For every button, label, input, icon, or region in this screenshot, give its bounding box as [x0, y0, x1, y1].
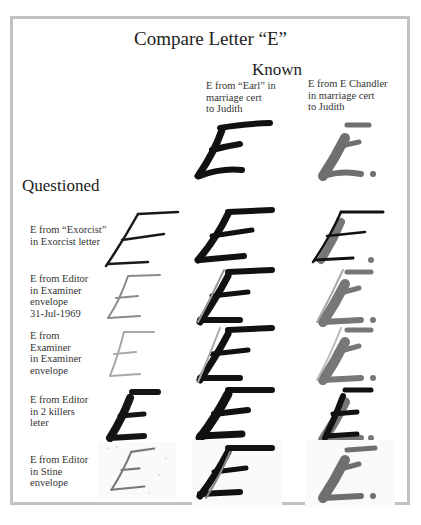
known-col-label-chandler: E from E Chandler in marriage cert to Ju… — [308, 78, 388, 113]
row-label-examiner-envelope: E from Examiner in Examiner envelope — [30, 330, 82, 376]
row-label-exorcist: E from “Exorcist” in Exorcist letter — [30, 224, 106, 247]
overlay-examiner-envelope-chandler-image — [305, 322, 395, 390]
known-header: Known — [252, 60, 302, 80]
questioned-e-stine-image — [98, 442, 176, 498]
known-e-chandler-image — [305, 118, 395, 186]
row-label-stine: E from Editor in Stine envelope — [30, 454, 88, 489]
known-e-earl-image — [192, 118, 282, 186]
row-label-2-killers: E from Editor in 2 killers leter — [30, 394, 88, 429]
overlay-examiner-envelope-earl-image — [192, 322, 282, 390]
overlay-stine-chandler-image — [305, 440, 395, 508]
overlay-exorcist-chandler-image — [305, 204, 395, 272]
overlay-exorcist-earl-image — [192, 204, 282, 272]
questioned-e-exorcist-image — [98, 206, 188, 274]
questioned-header: Questioned — [22, 176, 99, 196]
overlay-stine-earl-image — [192, 440, 282, 508]
row-label-editor-examiner: E from Editor in Examiner envelope 31-Ju… — [30, 273, 88, 319]
page-title: Compare Letter “E” — [0, 28, 421, 50]
known-col-label-earl: E from “Earl” in marriage cert to Judith — [206, 80, 276, 115]
